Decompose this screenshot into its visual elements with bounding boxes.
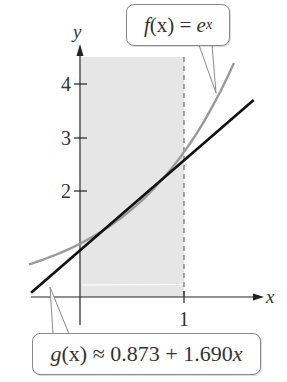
g-callout-pointer <box>50 287 69 334</box>
tick-label-y2: 2 <box>61 180 71 202</box>
y-axis-label: y <box>71 21 82 42</box>
f-exponent: x <box>206 17 212 33</box>
x-axis-label: x <box>265 286 275 307</box>
tick-label-y3: 3 <box>61 127 71 149</box>
tick-label-y4: 4 <box>61 73 71 95</box>
g-function-label: g (x) ≈ 0.873 + 1.690 x <box>32 333 261 375</box>
y-axis-arrow-icon <box>77 44 84 56</box>
shaded-region-inner-line <box>82 285 183 286</box>
x-axis-arrow-icon <box>253 294 264 301</box>
f-callout-pointer <box>199 45 216 93</box>
chart-canvas: 4 3 2 1 y x <box>0 0 287 382</box>
g-name: g <box>51 341 62 367</box>
shaded-region <box>81 57 184 297</box>
g-arg: (x) ≈ 0.873 + 1.690 <box>62 341 233 367</box>
tick-label-x1: 1 <box>179 308 189 330</box>
g-var: x <box>233 341 243 367</box>
f-function-label: f (x) = ex <box>126 4 230 46</box>
f-arg: (x) = <box>150 13 197 38</box>
f-base: e <box>197 13 206 38</box>
